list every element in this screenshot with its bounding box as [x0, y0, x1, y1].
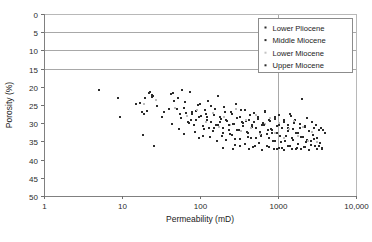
- data-point: [207, 100, 209, 102]
- data-point: [208, 127, 210, 129]
- data-point: [236, 129, 238, 131]
- data-point: [142, 134, 144, 136]
- data-point: [266, 133, 268, 135]
- data-point: [264, 111, 266, 113]
- data-point: [232, 123, 234, 125]
- data-point: [304, 125, 306, 127]
- data-point: [311, 121, 313, 123]
- data-point: [231, 134, 233, 136]
- data-point: [252, 146, 254, 148]
- data-point: [235, 103, 237, 105]
- data-point: [247, 136, 249, 138]
- data-point: [313, 127, 315, 129]
- legend-marker: [265, 27, 267, 29]
- data-point: [236, 117, 238, 119]
- data-point: [281, 147, 283, 149]
- data-point: [324, 132, 326, 134]
- data-point: [300, 148, 302, 150]
- data-point: [308, 130, 310, 132]
- data-point: [222, 132, 224, 134]
- data-point: [257, 116, 259, 118]
- data-point: [155, 99, 157, 101]
- data-point: [161, 116, 163, 118]
- x-tick-label: 10,000: [344, 202, 369, 211]
- data-point: [221, 135, 223, 137]
- data-point: [281, 127, 283, 129]
- data-point: [176, 108, 178, 110]
- data-point: [271, 132, 273, 134]
- data-point: [276, 125, 278, 127]
- x-tick-label: 1: [42, 202, 47, 211]
- data-point: [184, 101, 186, 103]
- legend-marker: [265, 39, 267, 41]
- data-point: [297, 143, 299, 145]
- data-point: [278, 122, 280, 124]
- data-point: [223, 116, 225, 118]
- y-tick-label: 20: [29, 84, 38, 93]
- data-point: [315, 124, 317, 126]
- data-point: [224, 111, 226, 113]
- data-point: [257, 118, 259, 120]
- data-point: [231, 113, 233, 115]
- data-point: [117, 97, 119, 99]
- data-point: [263, 124, 265, 126]
- data-point: [209, 136, 211, 138]
- data-point: [181, 89, 183, 91]
- data-point: [287, 145, 289, 147]
- data-point: [173, 100, 175, 102]
- data-point: [255, 137, 257, 139]
- data-point: [300, 136, 302, 138]
- data-point: [135, 103, 137, 105]
- y-tick-label: 15: [29, 66, 38, 75]
- data-point: [278, 114, 280, 116]
- data-point: [143, 113, 145, 115]
- data-point: [272, 140, 274, 142]
- data-point: [262, 122, 264, 124]
- data-point: [253, 121, 255, 123]
- data-point: [292, 139, 294, 141]
- data-point: [261, 149, 263, 151]
- data-point: [310, 144, 312, 146]
- data-point: [210, 105, 212, 107]
- data-point: [318, 129, 320, 131]
- data-point: [322, 129, 324, 131]
- data-point: [311, 131, 313, 133]
- data-point: [168, 108, 170, 110]
- data-point: [258, 142, 260, 144]
- data-point: [222, 127, 224, 129]
- data-point: [266, 145, 268, 147]
- chart-legend: Lower PlioceneMiddle MioceneLower Miocen…: [259, 19, 353, 73]
- data-point: [210, 121, 212, 123]
- data-point: [189, 91, 191, 93]
- data-point: [314, 145, 316, 147]
- data-point: [255, 127, 257, 129]
- data-point: [198, 137, 200, 139]
- data-point: [223, 106, 225, 108]
- data-point: [191, 111, 193, 113]
- data-point: [235, 108, 237, 110]
- data-point: [193, 124, 195, 126]
- legend-label: Lower Miocene: [273, 49, 325, 58]
- data-point: [229, 133, 231, 135]
- data-point: [302, 126, 304, 128]
- data-point: [205, 113, 207, 115]
- data-point: [269, 117, 271, 119]
- data-point: [239, 145, 241, 147]
- y-tick-label: 0: [34, 11, 39, 20]
- data-point: [242, 122, 244, 124]
- y-axis-tick-labels: 05101520253035404550: [29, 11, 38, 202]
- y-tick-label: 40: [29, 157, 38, 166]
- data-point: [290, 115, 292, 117]
- data-point: [271, 129, 273, 131]
- data-point: [178, 128, 180, 130]
- data-point: [287, 130, 289, 132]
- data-point: [299, 127, 301, 129]
- data-point: [251, 124, 253, 126]
- data-point: [261, 124, 263, 126]
- data-point: [316, 141, 318, 143]
- data-point: [228, 129, 230, 131]
- y-tick-label: 10: [29, 47, 38, 56]
- data-point: [219, 116, 221, 118]
- data-point: [172, 92, 174, 94]
- data-point: [318, 145, 320, 147]
